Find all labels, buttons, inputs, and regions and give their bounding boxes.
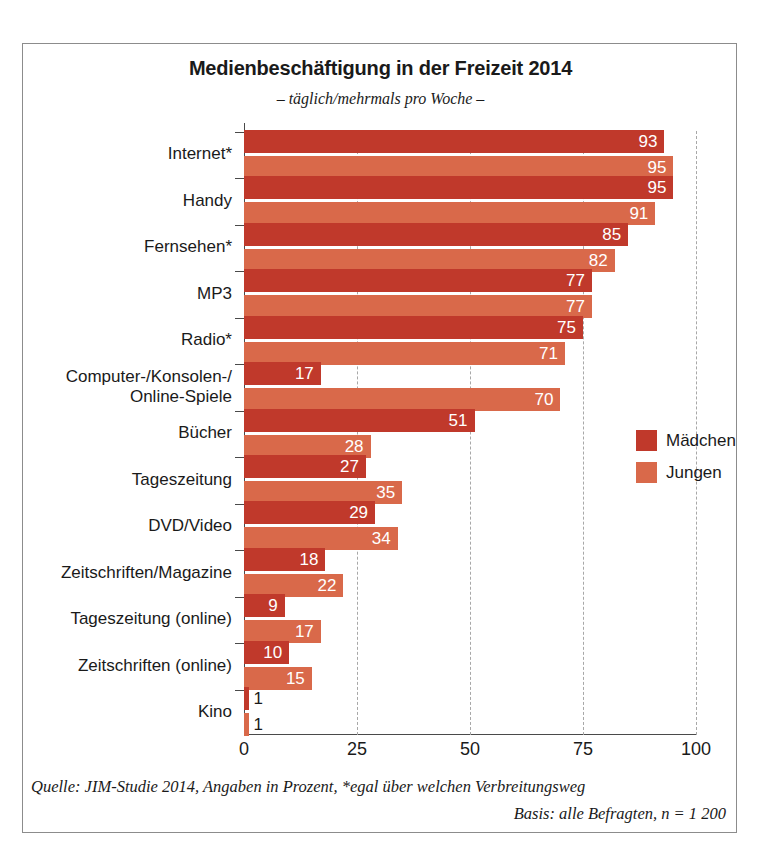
bar-value-label: 29 <box>349 504 375 521</box>
category-label-6: Bücher <box>178 423 232 443</box>
category-tick-3 <box>235 271 244 272</box>
bar-value-label: 77 <box>566 272 592 289</box>
legend-label-jungen: Jungen <box>666 463 722 483</box>
basis-note: Basis: alle Befragten, n = 1 200 <box>31 804 726 824</box>
legend-label-maedchen: Mädchen <box>666 431 736 451</box>
bar-maedchen-1: 95 <box>244 176 673 199</box>
bar-value-label: 95 <box>647 159 673 176</box>
x-tick-label-0: 0 <box>239 739 249 760</box>
category-label-12: Kino <box>198 702 232 722</box>
category-label-line: Zeitschriften (online) <box>78 656 232 676</box>
bar-maedchen-4: 75 <box>244 316 583 339</box>
bar-maedchen-6: 51 <box>244 409 475 432</box>
x-tick-label-75: 75 <box>573 739 593 760</box>
category-label-line: DVD/Video <box>148 516 232 536</box>
chart-title: Medienbeschäftigung in der Freizeit 2014 <box>23 57 738 80</box>
bar-value-label: 82 <box>589 252 615 269</box>
bar-value-label: 71 <box>539 345 565 362</box>
bar-maedchen-11: 10 <box>244 641 289 664</box>
chart-frame: Medienbeschäftigung in der Freizeit 2014… <box>22 43 737 833</box>
bar-maedchen-2: 85 <box>244 223 628 246</box>
category-label-10: Tageszeitung (online) <box>70 609 232 629</box>
legend-item-maedchen: Mädchen <box>636 430 736 451</box>
source-note: Quelle: JIM-Studie 2014, Angaben in Proz… <box>31 777 726 797</box>
legend-swatch-jungen <box>636 462 657 483</box>
bar-value-label: 75 <box>557 319 583 336</box>
category-label-line: Tageszeitung <box>132 470 232 490</box>
chart-footer: Quelle: JIM-Studie 2014, Angaben in Proz… <box>31 777 726 824</box>
category-label-11: Zeitschriften (online) <box>78 656 232 676</box>
category-tick-6 <box>235 411 244 412</box>
bar-value-label: 18 <box>299 551 325 568</box>
category-label-7: Tageszeitung <box>132 470 232 490</box>
category-label-1: Handy <box>183 191 232 211</box>
bar-value-label: 17 <box>295 623 321 640</box>
category-label-line: Computer-/Konsolen-/ <box>66 367 232 387</box>
x-tick-label-50: 50 <box>460 739 480 760</box>
bar-value-label: 17 <box>295 365 321 382</box>
bar-value-label: 70 <box>534 391 560 408</box>
category-label-line: Online-Spiele <box>66 387 232 407</box>
bar-maedchen-5: 17 <box>244 362 321 385</box>
bar-maedchen-0: 93 <box>244 130 664 153</box>
bar-value-label: 34 <box>372 530 398 547</box>
category-label-line: Handy <box>183 191 232 211</box>
category-label-line: Bücher <box>178 423 232 443</box>
bar-maedchen-9: 18 <box>244 548 325 571</box>
category-tick-5 <box>235 364 244 365</box>
category-label-line: Internet* <box>168 144 232 164</box>
bar-value-label: 93 <box>638 133 664 150</box>
chart-legend: MädchenJungen <box>636 430 736 494</box>
category-label-line: Zeitschriften/Magazine <box>61 563 232 583</box>
category-label-line: MP3 <box>197 284 232 304</box>
bar-jungen-12: 1 <box>244 713 249 736</box>
category-label-line: Radio* <box>181 330 232 350</box>
category-label-5: Computer-/Konsolen-/Online-Spiele <box>66 367 232 406</box>
bar-value-label: 77 <box>566 298 592 315</box>
category-tick-7 <box>235 457 244 458</box>
category-label-4: Radio* <box>181 330 232 350</box>
bar-value-label: 35 <box>376 484 402 501</box>
bar-maedchen-3: 77 <box>244 269 592 292</box>
category-tick-11 <box>235 643 244 644</box>
category-label-0: Internet* <box>168 144 232 164</box>
bar-maedchen-10: 9 <box>244 594 285 617</box>
bar-value-label: 27 <box>340 458 366 475</box>
category-tick-9 <box>235 550 244 551</box>
category-label-8: DVD/Video <box>148 516 232 536</box>
category-tick-1 <box>235 178 244 179</box>
category-label-3: MP3 <box>197 284 232 304</box>
category-label-2: Fernsehen* <box>144 237 232 257</box>
category-tick-10 <box>235 597 244 598</box>
x-tick-label-25: 25 <box>347 739 367 760</box>
bar-value-label: 95 <box>647 179 673 196</box>
bar-value-label: 9 <box>268 597 284 614</box>
category-label-line: Kino <box>198 702 232 722</box>
bar-maedchen-12: 1 <box>244 687 249 710</box>
bar-value-label: 10 <box>263 644 289 661</box>
bar-value-label: 1 <box>254 690 263 707</box>
bar-value-label: 1 <box>254 716 263 733</box>
plot-area: 9395959185827777757117705128273529341822… <box>244 131 696 735</box>
category-tick-2 <box>235 225 244 226</box>
category-tick-0 <box>235 132 244 133</box>
legend-item-jungen: Jungen <box>636 462 736 483</box>
bar-maedchen-8: 29 <box>244 501 375 524</box>
bar-value-label: 91 <box>629 205 655 222</box>
category-tick-12 <box>235 690 244 691</box>
bar-maedchen-7: 27 <box>244 455 366 478</box>
bar-value-label: 51 <box>449 412 475 429</box>
legend-swatch-maedchen <box>636 430 657 451</box>
category-label-9: Zeitschriften/Magazine <box>61 563 232 583</box>
category-label-line: Tageszeitung (online) <box>70 609 232 629</box>
bar-value-label: 15 <box>286 670 312 687</box>
bar-value-label: 85 <box>602 226 628 243</box>
category-tick-4 <box>235 318 244 319</box>
bar-value-label: 28 <box>345 438 371 455</box>
bar-value-label: 22 <box>318 577 344 594</box>
bar-jungen-11: 15 <box>244 667 312 690</box>
x-tick-label-100: 100 <box>681 739 711 760</box>
category-tick-8 <box>235 504 244 505</box>
category-label-line: Fernsehen* <box>144 237 232 257</box>
chart-subtitle: – täglich/mehrmals pro Woche – <box>23 90 738 108</box>
